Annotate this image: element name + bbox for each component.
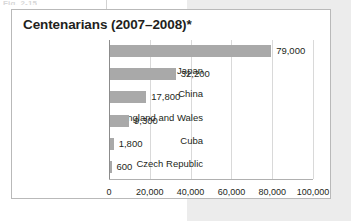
chart-row: China17,800 <box>109 87 313 109</box>
figure-card: Centenarians (2007–2008)* U.S.79,000Japa… <box>11 9 331 199</box>
x-tick-label: 40,000 <box>177 187 205 197</box>
bar-value-label: 32,200 <box>181 67 210 80</box>
category-label: Czech Republic <box>23 157 203 170</box>
x-tick-label: 100,000 <box>297 187 330 197</box>
chart-row: Czech Republic600 <box>109 157 313 179</box>
bar-value-label: 9,300 <box>134 114 158 127</box>
bar <box>110 45 271 57</box>
bar-value-label: 1,800 <box>119 137 143 150</box>
bar <box>110 91 146 103</box>
x-tick-label: 60,000 <box>218 187 246 197</box>
chart-row: Cuba1,800 <box>109 134 313 156</box>
bar <box>110 161 112 173</box>
gridline <box>313 40 314 179</box>
chart-row: England and Wales9,300 <box>109 111 313 133</box>
truncated-caption: Fig. 2-15 <box>3 0 37 5</box>
chart-row: Japan32,200 <box>109 64 313 86</box>
category-axis-line <box>109 179 313 180</box>
bar <box>110 115 129 127</box>
chart-area: U.S.79,000Japan32,200China17,800England … <box>12 36 332 199</box>
bar <box>110 138 114 150</box>
chart-row: U.S.79,000 <box>109 41 313 63</box>
plot-area: U.S.79,000Japan32,200China17,800England … <box>109 40 313 179</box>
bar-value-label: 600 <box>117 160 133 173</box>
bar-value-label: 79,000 <box>276 44 305 57</box>
bar-value-label: 17,800 <box>151 90 180 103</box>
x-tick-label: 0 <box>106 187 111 197</box>
chart-title: Centenarians (2007–2008)* <box>23 17 192 32</box>
bar <box>110 68 176 80</box>
x-tick-label: 80,000 <box>258 187 286 197</box>
x-tick-label: 20,000 <box>136 187 164 197</box>
